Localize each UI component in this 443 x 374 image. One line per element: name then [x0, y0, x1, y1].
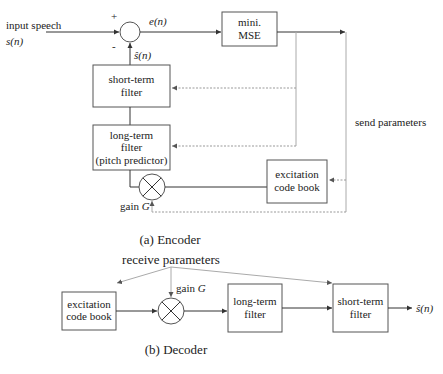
input-speech-label: input speech [6, 19, 62, 31]
long-term-to-multiplier [130, 170, 139, 187]
encoder-multiplier-icon [139, 174, 165, 200]
predicted-signal-label: ŝ(n) [134, 49, 151, 62]
encoder-long-term-line1: long-term [110, 129, 154, 141]
receive-to-codebook [117, 267, 171, 283]
encoder-gain-label: gain G [120, 200, 150, 212]
encoder-section: input speech s(n) + - e(n) mini. MSE sen… [6, 10, 426, 247]
encoder-codebook-line2: code book [274, 181, 320, 193]
decoder-short-term-line2: filter [350, 308, 372, 320]
celp-diagram: input speech s(n) + - e(n) mini. MSE sen… [0, 0, 443, 374]
output-signal-label: ŝ(n) [416, 302, 433, 315]
decoder-long-term-line1: long-term [233, 295, 277, 307]
send-parameters-label: send parameters [355, 116, 426, 128]
receive-parameters-label: receive parameters [122, 252, 220, 267]
error-signal-label: e(n) [149, 15, 167, 28]
decoder-multiplier-icon [158, 298, 184, 324]
decoder-caption: (b) Decoder [145, 342, 208, 357]
decoder-codebook-line2: code book [66, 310, 112, 322]
plus-sign: + [111, 10, 117, 22]
encoder-short-term-line2: filter [121, 86, 143, 98]
encoder-caption: (a) Encoder [140, 232, 202, 247]
decoder-section: receive parameters excitation code book … [62, 252, 433, 357]
input-signal-label: s(n) [6, 35, 23, 48]
receive-to-short-term [171, 267, 332, 283]
encoder-long-term-line2: filter [121, 141, 143, 153]
decoder-long-term-line2: filter [244, 308, 266, 320]
encoder-short-term-line1: short-term [109, 73, 155, 85]
mse-line1: mini. [238, 16, 261, 28]
encoder-codebook-line1: excitation [275, 168, 319, 180]
decoder-short-term-line1: short-term [338, 295, 384, 307]
mse-line2: MSE [238, 29, 261, 41]
decoder-codebook-line1: excitation [67, 298, 111, 310]
minus-sign: - [112, 40, 116, 52]
summer-circle [120, 22, 140, 42]
decoder-gain-label: gain G [176, 282, 206, 294]
encoder-long-term-line3: (pitch predictor) [96, 154, 168, 167]
